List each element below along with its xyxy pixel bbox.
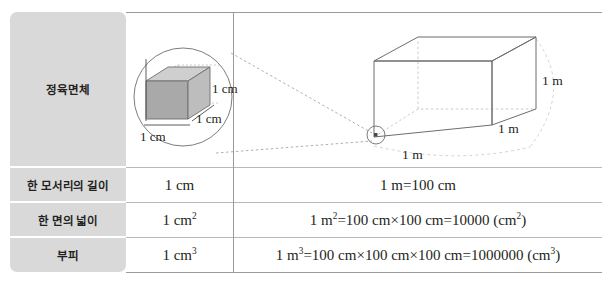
content-column: 1 cm 1 cm 1 cm — [126, 12, 602, 273]
cell-face-area-m-text: 1 m2=100 cm×100 cm=10000 (cm2) — [310, 212, 526, 229]
cell-edge-length-m: 1 m=100 cm — [234, 168, 602, 202]
magnifier-connector-lines — [216, 53, 372, 153]
row-label-face-area: 한 면의 넓이 — [10, 203, 126, 236]
large-cube-right-face — [492, 37, 536, 125]
cell-volume-cm: 1 cm3 — [126, 238, 233, 272]
row-label-volume: 부피 — [10, 238, 126, 272]
cell-volume-m-text: 1 m3=100 cm×100 cm×100 cm=1000000 (cm3) — [276, 247, 560, 264]
large-cube-top-face — [374, 37, 536, 61]
row-label-edge-length: 한 모서리의 길이 — [10, 168, 126, 201]
large-cube-label-height: 1 m — [542, 73, 563, 88]
table-bottom-rule — [126, 272, 602, 273]
cell-edge-length-cm: 1 cm — [126, 168, 233, 202]
cell-volume-cm-text: 1 cm3 — [162, 247, 196, 264]
comparison-table: 정육면체 한 모서리의 길이 한 면의 넓이 부피 — [0, 0, 611, 286]
cell-edge-length-cm-text: 1 cm — [165, 177, 195, 194]
cell-face-area-cm-text: 1 cm2 — [162, 212, 196, 229]
row-label-cube: 정육면체 — [10, 12, 126, 166]
cell-edge-length-m-text: 1 m=100 cm — [380, 177, 456, 194]
cube-figure-svg: 1 cm 1 cm 1 cm — [126, 13, 602, 167]
row-label-column: 정육면체 한 모서리의 길이 한 면의 넓이 부피 — [10, 12, 126, 273]
cell-face-area-cm: 1 cm2 — [126, 203, 233, 237]
small-cube-label-depth: 1 cm — [196, 111, 222, 126]
small-cube-label-height: 1 cm — [212, 81, 238, 96]
large-cube-guide-arcs — [374, 39, 554, 156]
small-cube-label-width: 1 cm — [140, 129, 166, 144]
cube-figure: 1 cm 1 cm 1 cm — [126, 13, 602, 167]
large-cube-label-width: 1 m — [402, 147, 423, 162]
corner-magnify-marker — [367, 126, 385, 144]
cell-face-area-m: 1 m2=100 cm×100 cm=10000 (cm2) — [234, 203, 602, 237]
cell-volume-m: 1 m3=100 cm×100 cm×100 cm=1000000 (cm3) — [234, 238, 602, 272]
large-cube-label-depth: 1 m — [498, 121, 519, 136]
